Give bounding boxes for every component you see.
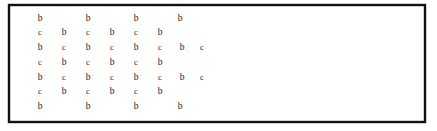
vertex-label-c-r2-1: c	[110, 42, 114, 52]
cell-label-b-r3-2: b	[158, 57, 163, 67]
cell-label-b-r5-2: b	[158, 86, 163, 96]
cell-label-b-r2-1: b	[86, 42, 91, 52]
cell-label-b-r0-3: b	[178, 13, 183, 23]
cell-label-b-r2-2: b	[134, 42, 139, 52]
lattice-diagram-figure: bbbbcccbbbbbbbcccccccbbbbbbbcccccccbbbbb…	[0, 0, 437, 131]
vertex-label-c-r2-3: c	[200, 42, 204, 52]
cell-label-b-r0-1: b	[86, 13, 91, 23]
cell-label-b-r5-1: b	[110, 86, 115, 96]
cell-label-b-r4-1: b	[86, 72, 91, 82]
cell-label-b-r1-0: b	[62, 27, 67, 37]
cell-label-b-r4-2: b	[134, 72, 139, 82]
diagram-canvas: bbbbcccbbbbbbbcccccccbbbbbbbcccccccbbbbb…	[0, 0, 437, 131]
vertex-label-c-r4-1: c	[110, 72, 114, 82]
vertex-label-c-r1-0: c	[38, 27, 42, 37]
vertex-label-c-r3-1: c	[86, 57, 90, 67]
cell-label-b-r6-3: b	[178, 101, 183, 111]
cell-label-b-r6-1: b	[86, 101, 91, 111]
vertex-label-c-r2-2: c	[158, 42, 162, 52]
vertex-label-c-r3-0: c	[38, 57, 42, 67]
vertex-label-c-r2-0: c	[62, 42, 66, 52]
vertex-label-c-r5-1: c	[86, 86, 90, 96]
cell-label-b-r0-0: b	[38, 13, 43, 23]
cell-label-b-r2-3: b	[180, 42, 185, 52]
vertex-label-c-r3-2: c	[134, 57, 138, 67]
vertex-label-c-r4-0: c	[62, 72, 66, 82]
cell-label-b-r6-2: b	[134, 101, 139, 111]
vertex-label-c-r1-1: c	[86, 27, 90, 37]
cell-label-b-r0-2: b	[134, 13, 139, 23]
cell-label-b-r4-3: b	[180, 72, 185, 82]
cell-label-b-r6-0: b	[38, 101, 43, 111]
cell-label-b-r3-1: b	[110, 57, 115, 67]
cell-label-b-r4-0: b	[38, 72, 43, 82]
vertex-label-c-r4-3: c	[200, 72, 204, 82]
cell-label-b-r1-1: b	[110, 27, 115, 37]
vertex-label-c-r5-0: c	[38, 86, 42, 96]
vertex-label-c-r1-2: c	[134, 27, 138, 37]
vertex-label-c-r4-2: c	[158, 72, 162, 82]
cell-label-b-r5-0: b	[62, 86, 67, 96]
vertex-label-c-r5-2: c	[134, 86, 138, 96]
cell-label-b-r3-0: b	[62, 57, 67, 67]
cell-label-b-r2-0: b	[38, 42, 43, 52]
outer-rectangle-border	[9, 5, 425, 122]
cell-label-b-r1-2: b	[158, 27, 163, 37]
